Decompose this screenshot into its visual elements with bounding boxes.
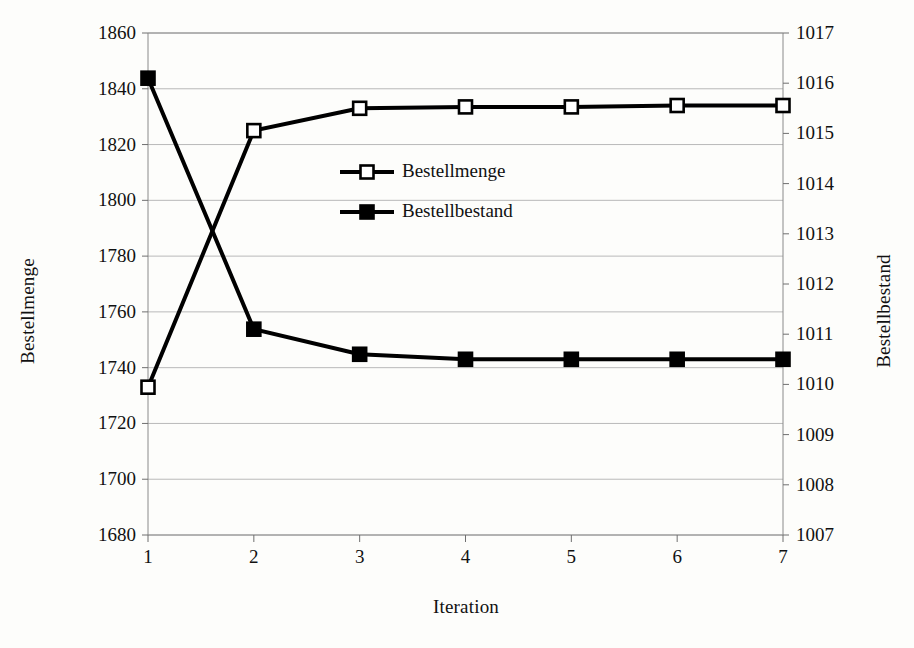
data-point-marker	[247, 323, 260, 336]
data-point-marker	[353, 102, 366, 115]
data-point-marker	[247, 124, 260, 137]
data-point-marker	[671, 353, 684, 366]
data-series-layer	[142, 72, 790, 394]
data-point-marker	[459, 353, 472, 366]
data-point-marker	[671, 99, 684, 112]
chart-legend	[340, 166, 394, 219]
data-point-marker	[777, 99, 790, 112]
chart-figure: Bestellmenge Bestellbestand Iteration 18…	[0, 0, 914, 648]
legend-label-bestellmenge: Bestellmenge	[402, 160, 505, 182]
data-point-marker	[142, 381, 155, 394]
legend-marker	[361, 166, 374, 179]
legend-marker	[361, 206, 374, 219]
plot-area	[0, 0, 914, 648]
data-point-marker	[565, 353, 578, 366]
legend-label-bestellbestand: Bestellbestand	[402, 200, 513, 222]
data-point-marker	[142, 72, 155, 85]
series-bestellmenge	[142, 99, 790, 394]
data-point-marker	[565, 100, 578, 113]
data-point-marker	[459, 100, 472, 113]
data-point-marker	[777, 353, 790, 366]
data-point-marker	[353, 348, 366, 361]
